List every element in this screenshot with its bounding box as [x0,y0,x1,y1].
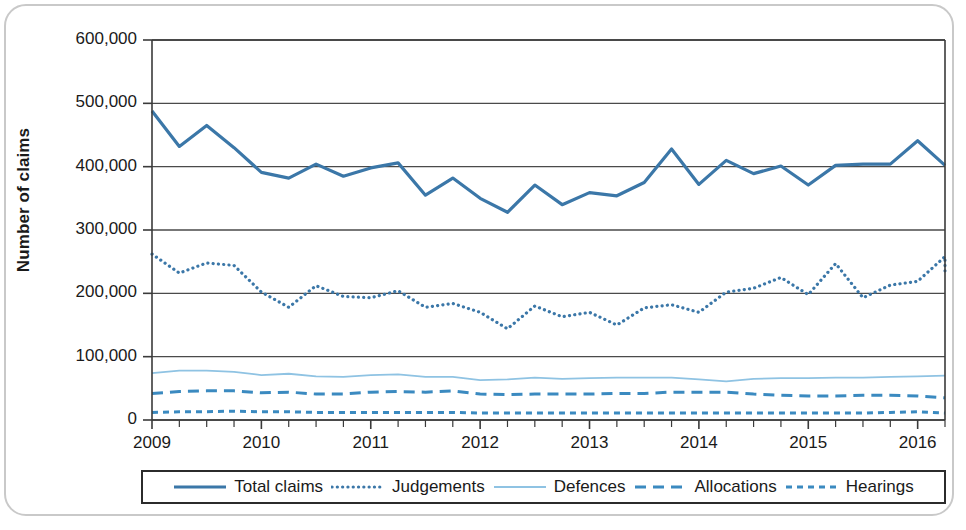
y-tick-label: 600,000 [27,29,137,49]
y-tick-label: 200,000 [27,282,137,302]
legend-item-hearings: Hearings [781,477,918,497]
gridlines-group [152,40,945,420]
legend-line-swatch [785,480,839,494]
x-tick-label: 2009 [117,433,187,453]
legend-item-allocations: Allocations [630,477,781,497]
x-tick-label: 2010 [226,433,296,453]
x-tick-label: 2012 [445,433,515,453]
y-tick-label: 0 [27,409,137,429]
legend-line-swatch [634,480,688,494]
series-line-defences [152,371,945,382]
y-tick-label: 100,000 [27,346,137,366]
chart-figure: Number of claims 0100,000200,000300,0004… [0,0,966,530]
legend-line-swatch [331,480,385,494]
x-tick-label: 2014 [664,433,734,453]
series-line-total-claims [152,111,945,212]
y-tick-label: 500,000 [27,92,137,112]
data-series-group [152,111,945,413]
legend-line-swatch [173,480,227,494]
series-line-judgements [152,254,945,329]
x-tick-label: 2011 [336,433,406,453]
x-tick-label: 2015 [773,433,843,453]
legend-item-total-claims: Total claims [169,477,327,497]
legend-item-label: Total claims [234,477,323,497]
legend-item-label: Hearings [846,477,914,497]
legend-item-label: Judgements [392,477,485,497]
legend-item-judgements: Judgements [327,477,489,497]
legend-item-defences: Defences [489,477,630,497]
legend-item-label: Allocations [695,477,777,497]
x-tick-label: 2013 [555,433,625,453]
chart-legend: Total claimsJudgementsDefencesAllocation… [141,470,946,504]
y-tick-label: 400,000 [27,156,137,176]
series-line-allocations [152,391,945,398]
x-tick-label: 2016 [883,433,953,453]
legend-item-label: Defences [554,477,626,497]
legend-line-swatch [493,480,547,494]
series-line-hearings [152,411,945,413]
axis-ticks-group [143,40,945,429]
y-tick-label: 300,000 [27,219,137,239]
